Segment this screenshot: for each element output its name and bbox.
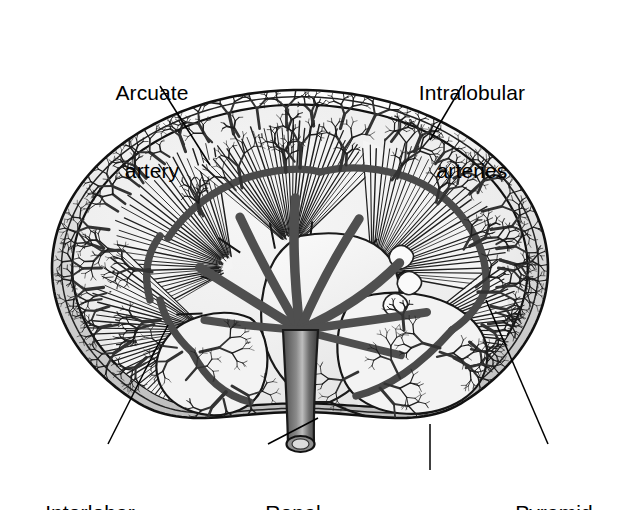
arcuate-artery-label: Arcuate artery [72,28,232,210]
renal-artery-label: Renal artery [218,448,368,510]
intralobular-arteries-label-line1: Intralobular [372,80,572,106]
arcuate-artery-label-line2: artery [72,158,232,184]
ureter-label: Ureter [360,474,500,510]
arcuate-artery-label-line1: Arcuate [72,80,232,106]
pyramid-label: Pyramid [492,448,616,510]
interlobar-artery-label: Interlobar artery [10,448,170,510]
pyramid-label-line1: Pyramid [492,500,616,510]
interlobar-artery-label-line1: Interlobar [10,500,170,510]
intralobular-arteries-label-line2: arteries [372,158,572,184]
intralobular-arteries-label: Intralobular arteries [372,28,572,210]
renal-artery-label-line1: Renal [218,500,368,510]
